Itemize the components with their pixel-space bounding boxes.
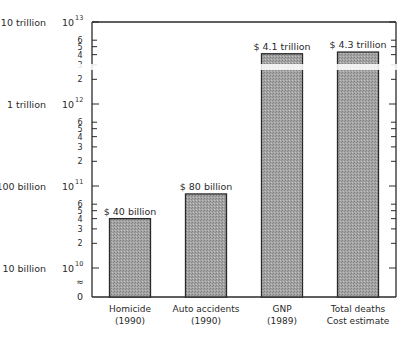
data-label-2: $ 4.1 trillion — [253, 41, 310, 52]
major-tick-name-label-3: 10 billion — [2, 263, 46, 274]
x-tick-label-1-line1: Auto accidents — [173, 304, 240, 314]
minor-tick-label-2: 4 — [77, 51, 82, 60]
bars-group: $ 40 billion$ 80 billion$ 4.1 trillion$ … — [104, 39, 387, 297]
x-tick-label-2-line2: (1989) — [267, 316, 297, 326]
x-tick-label-3-line2: Cost estimate — [327, 316, 390, 326]
major-tick-exponent-2: 11 — [75, 178, 83, 186]
data-label-3: $ 4.3 trillion — [329, 39, 386, 50]
bar-2 — [262, 54, 303, 297]
minor-tick-label-8: 3 — [77, 143, 82, 152]
data-label-1: $ 80 billion — [180, 181, 233, 192]
x-axis-labels: Homicide(1990)Auto accidents(1990)GNP(19… — [109, 304, 390, 326]
y-axis-left: 10 trillion10131 trillion1012100 billion… — [0, 14, 99, 302]
x-tick-label-3-line1: Total deaths — [330, 304, 386, 314]
minor-tick-label-7: 4 — [77, 133, 82, 142]
minor-tick-label-12: 4 — [77, 215, 82, 224]
major-tick-exponent-3: 10 — [75, 260, 83, 268]
bar-1 — [186, 194, 227, 297]
y-axis-right — [389, 22, 396, 268]
zero-tick-label: 0 — [77, 291, 83, 302]
major-tick-name-label-2: 100 billion — [0, 181, 46, 192]
major-tick-name-label-1: 1 trillion — [7, 99, 46, 110]
bar-0 — [110, 219, 151, 297]
x-tick-label-0-line2: (1990) — [115, 316, 145, 326]
axis-break-symbol: ≈ — [76, 277, 84, 287]
major-tick-exponent-0: 13 — [75, 14, 83, 22]
major-tick-base-2: 10 — [62, 181, 74, 192]
major-tick-base-3: 10 — [62, 263, 74, 274]
major-tick-base-1: 10 — [62, 99, 74, 110]
minor-tick-label-13: 3 — [77, 225, 82, 234]
bar-3 — [338, 52, 379, 297]
minor-tick-label-14: 2 — [77, 239, 82, 248]
axis-break-band — [0, 64, 416, 70]
minor-tick-label-9: 2 — [77, 157, 82, 166]
x-tick-label-1-line2: (1990) — [191, 316, 221, 326]
major-tick-base-0: 10 — [62, 17, 74, 28]
bar-chart: $ 40 billion$ 80 billion$ 4.1 trillion$ … — [0, 0, 416, 339]
x-tick-label-0-line1: Homicide — [109, 304, 152, 314]
major-tick-exponent-1: 12 — [75, 96, 83, 104]
major-tick-name-label-0: 10 trillion — [1, 17, 46, 28]
x-tick-label-2-line1: GNP — [272, 304, 292, 314]
minor-tick-label-4: 2 — [77, 75, 82, 84]
data-label-0: $ 40 billion — [104, 206, 157, 217]
